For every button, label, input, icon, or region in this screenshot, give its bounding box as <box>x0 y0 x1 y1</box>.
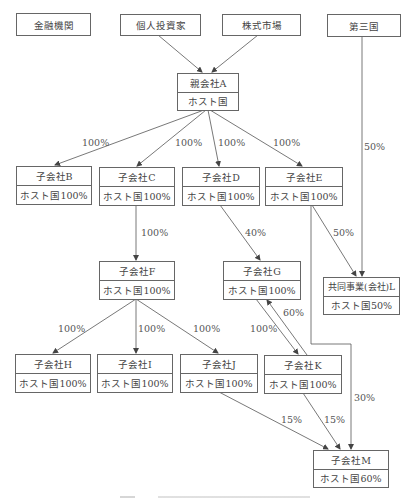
node-ownership: ホスト国 <box>178 92 238 111</box>
node-name: 子会社C <box>100 168 174 186</box>
node-ownership: ホスト国100% <box>181 373 257 392</box>
parent-company-a: 親会社A ホスト国 <box>177 73 239 111</box>
node-name: 子会社E <box>266 168 342 186</box>
stock-market-box: 株式市場 <box>222 14 301 36</box>
edge-label-f-i: 100% <box>138 323 165 334</box>
ownership-diagram: 金融機関 個人投資家 株式市場 第三国 親会社A ホスト国 子会社B ホスト国1… <box>0 0 413 498</box>
node-ownership: ホスト国100% <box>16 373 90 392</box>
subsidiary-m: 子会社M ホスト国60% <box>313 450 389 488</box>
node-ownership: ホスト国100% <box>17 185 91 204</box>
individual-investor-label: 個人投資家 <box>121 15 200 35</box>
figure-caption-clipped <box>120 494 310 498</box>
node-ownership: ホスト国50% <box>324 296 399 315</box>
edge-label-g-k: 100% <box>250 323 277 334</box>
node-name: 子会社B <box>17 167 91 185</box>
joint-venture-l: 共同事業(会社)L ホスト国50% <box>323 277 400 315</box>
subsidiary-k: 子会社K ホスト国100% <box>264 355 342 394</box>
edge-label-f-h: 100% <box>58 323 85 334</box>
edge-label-d-g: 40% <box>245 227 266 238</box>
subsidiary-e: 子会社E ホスト国100% <box>265 167 343 206</box>
edge-label-a-d: 100% <box>218 137 245 148</box>
edge-label-k-m: 15% <box>324 414 345 425</box>
node-ownership: ホスト国100% <box>100 280 174 299</box>
edge-label-f-j: 100% <box>193 323 220 334</box>
node-name: 子会社K <box>265 356 341 374</box>
node-name: 子会社D <box>183 168 259 186</box>
subsidiary-f: 子会社F ホスト国100% <box>99 261 175 300</box>
node-ownership: ホスト国100% <box>265 374 341 393</box>
node-name: 子会社M <box>314 451 388 469</box>
node-ownership: ホスト国100% <box>266 186 342 205</box>
subsidiary-d: 子会社D ホスト国100% <box>182 167 260 206</box>
subsidiary-b: 子会社B ホスト国100% <box>16 166 92 205</box>
third-country-box: 第三国 <box>327 14 401 37</box>
individual-investor-box: 個人投資家 <box>120 14 201 36</box>
financial-institution-box: 金融機関 <box>16 13 91 36</box>
node-ownership: ホスト国60% <box>314 469 388 488</box>
node-ownership: ホスト国100% <box>224 280 300 299</box>
stock-market-label: 株式市場 <box>223 15 300 35</box>
edge-label-a-e: 100% <box>273 137 300 148</box>
edge-label-j-m: 15% <box>281 414 302 425</box>
edge-label-a-b: 100% <box>82 137 109 148</box>
subsidiary-i: 子会社I ホスト国100% <box>97 354 173 393</box>
node-name: 親会社A <box>178 74 238 92</box>
node-name: 共同事業(会社)L <box>324 278 399 296</box>
node-ownership: ホスト国100% <box>183 186 259 205</box>
subsidiary-g: 子会社G ホスト国100% <box>223 261 301 300</box>
node-name: 子会社I <box>98 355 172 373</box>
edge-label-a-c: 100% <box>175 137 202 148</box>
third-country-label: 第三国 <box>328 15 400 36</box>
node-ownership: ホスト国100% <box>98 373 172 392</box>
node-ownership: ホスト国100% <box>100 186 174 205</box>
node-name: 子会社F <box>100 262 174 280</box>
financial-institution-label: 金融機関 <box>17 14 90 35</box>
subsidiary-c: 子会社C ホスト国100% <box>99 167 175 206</box>
edge-label-k-g: 60% <box>283 307 304 318</box>
edge-label-e-m: 30% <box>354 392 375 403</box>
edge-label-c-f: 100% <box>141 227 168 238</box>
edge-label-third-l: 50% <box>364 141 385 152</box>
node-name: 子会社G <box>224 262 300 280</box>
node-name: 子会社H <box>16 355 90 373</box>
edge-label-e-l: 50% <box>333 227 354 238</box>
node-name: 子会社J <box>181 355 257 373</box>
subsidiary-h: 子会社H ホスト国100% <box>15 354 91 393</box>
subsidiary-j: 子会社J ホスト国100% <box>180 354 258 393</box>
